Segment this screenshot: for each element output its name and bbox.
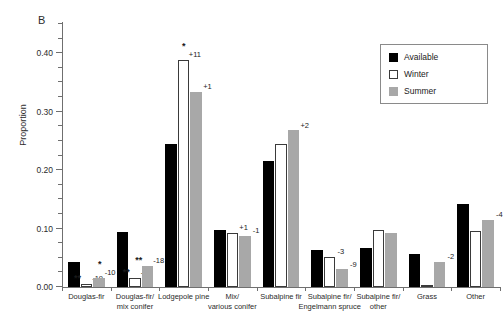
- legend-swatch-available: [389, 53, 398, 62]
- y-axis-tick-minor: [58, 23, 62, 24]
- bar-delta-label: -4: [496, 211, 503, 219]
- bar-summer: [434, 262, 446, 287]
- y-axis-tick-major: [56, 228, 62, 229]
- bar-summer: [239, 236, 251, 287]
- legend: Available Winter Summer: [380, 44, 488, 104]
- bar-significance-marker: *: [182, 42, 186, 51]
- bar-significance-marker: *: [98, 260, 102, 269]
- bar-winter: [227, 233, 239, 287]
- bar-winter: [81, 284, 93, 288]
- x-axis-tick: [62, 287, 63, 291]
- bar-summer: [336, 269, 348, 287]
- x-axis-tick: [354, 287, 355, 291]
- y-axis-tick-label: 0.30: [36, 107, 53, 117]
- bar-winter: [324, 257, 336, 287]
- y-axis-tick-major: [56, 52, 62, 53]
- x-axis-category-label: Other: [466, 292, 485, 302]
- legend-swatch-summer: [389, 87, 398, 96]
- bar-winter: [470, 231, 482, 287]
- bar-available: [457, 204, 469, 287]
- x-axis-tick: [305, 287, 306, 291]
- y-axis-tick-minor: [58, 271, 62, 272]
- bar-significance-marker: **: [135, 256, 142, 265]
- bar-significance-marker: **: [74, 274, 81, 283]
- y-axis-tick-minor: [58, 38, 62, 39]
- x-axis-tick: [159, 287, 160, 291]
- x-axis-category-label: Grass: [417, 292, 437, 302]
- x-axis-tick: [451, 287, 452, 291]
- bar-summer: [93, 278, 105, 287]
- bar-available: [214, 230, 226, 287]
- bar-delta-label: -3: [338, 248, 345, 256]
- bar-delta-label: -10: [105, 269, 116, 277]
- bar-winter: [129, 278, 141, 287]
- bar-winter: [275, 144, 287, 287]
- bar-winter: [373, 230, 385, 287]
- y-axis-tick-minor: [58, 140, 62, 141]
- bar-available: [409, 254, 421, 287]
- y-axis-tick-major: [56, 169, 62, 170]
- x-axis-tick: [500, 287, 501, 291]
- x-axis-category-label: Douglas-fir: [68, 292, 104, 302]
- x-axis-line: [62, 287, 500, 288]
- y-axis-tick-minor: [58, 67, 62, 68]
- x-axis-tick: [208, 287, 209, 291]
- bar-delta-label: +1: [239, 224, 248, 232]
- bar-summer: [190, 92, 202, 287]
- bar-summer: [482, 220, 494, 287]
- y-axis-tick-label: 0.40: [36, 48, 53, 58]
- bar-available: [311, 250, 323, 287]
- bar-delta-label: -9: [350, 261, 357, 269]
- x-axis-tick: [111, 287, 112, 291]
- y-axis-tick-label: 0.10: [36, 224, 53, 234]
- y-axis-tick-minor: [58, 198, 62, 199]
- bar-available: [117, 232, 129, 287]
- bar-available: [360, 248, 372, 287]
- bar-summer: [142, 266, 154, 287]
- x-axis-category-label: Lodgepole pine: [158, 292, 209, 302]
- bar-delta-label: -1: [253, 227, 260, 235]
- x-axis-category-label: Subalpine fir/ Engelmann spruce: [298, 292, 361, 311]
- y-axis-tick-label: 0.00: [36, 282, 53, 292]
- x-axis-category-label: Douglas-fir/ mix conifer: [116, 292, 154, 311]
- bar-significance-marker: **: [123, 268, 130, 277]
- y-axis-tick-minor: [58, 155, 62, 156]
- bar-delta-label: +11: [189, 51, 201, 59]
- x-axis-tick: [257, 287, 258, 291]
- panel-letter: B: [38, 14, 46, 26]
- bar-delta-label: -2: [447, 253, 454, 261]
- bar-delta-label: +1: [203, 83, 212, 91]
- bar-winter: [421, 285, 433, 287]
- legend-item-winter: Winter: [389, 69, 479, 79]
- bar-summer: [288, 130, 300, 287]
- x-axis-category-label: Subalpine fir/ other: [356, 292, 400, 311]
- bar-delta-label: +2: [300, 122, 309, 130]
- bar-winter: [178, 60, 190, 287]
- legend-swatch-winter: [389, 70, 398, 79]
- legend-item-available: Available: [389, 52, 479, 62]
- x-axis-category-label: Subalpine fir: [260, 292, 302, 302]
- y-axis-tick-minor: [58, 96, 62, 97]
- bar-available: [165, 144, 177, 287]
- figure-panel-b: B Proportion 0.000.100.200.300.40-19**-1…: [0, 0, 504, 322]
- y-axis-tick-minor: [58, 184, 62, 185]
- bar-summer: [385, 233, 397, 287]
- x-axis-category-label: Mix/ various conifer: [208, 292, 257, 311]
- x-axis-tick: [403, 287, 404, 291]
- y-axis-tick-minor: [58, 242, 62, 243]
- legend-label-winter: Winter: [404, 69, 429, 79]
- y-axis-tick-minor: [58, 257, 62, 258]
- bar-delta-label: -18: [153, 257, 164, 265]
- legend-label-summer: Summer: [404, 86, 436, 96]
- y-axis-tick-minor: [58, 81, 62, 82]
- y-axis-title: Proportion: [18, 80, 28, 170]
- y-axis-tick-minor: [58, 213, 62, 214]
- y-axis-tick-major: [56, 111, 62, 112]
- y-axis-tick-minor: [58, 125, 62, 126]
- legend-item-summer: Summer: [389, 86, 479, 96]
- legend-label-available: Available: [404, 52, 438, 62]
- bar-available: [263, 161, 275, 287]
- y-axis-tick-label: 0.20: [36, 165, 53, 175]
